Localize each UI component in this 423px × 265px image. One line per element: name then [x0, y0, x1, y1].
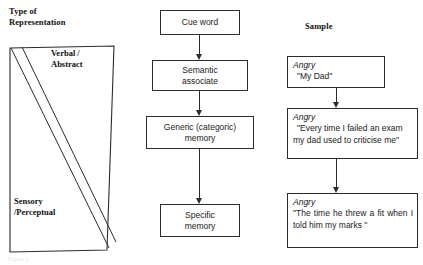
process-box-cue-word: Cue word — [160, 10, 240, 35]
sample-box-generic-memory: Angry "Every time I failed an exam my da… — [287, 108, 418, 159]
gradient-diagonal-upper — [11, 48, 109, 248]
sample-emotion-label: Angry — [293, 112, 413, 123]
process-box-generic-categoric-memory: Generic (categoric) memory — [146, 116, 254, 149]
sample-box-specific-memory: Angry "The time he threw a fit when I to… — [287, 193, 418, 248]
sample-emotion-label: Angry — [293, 60, 380, 71]
process-box-specific-memory: Specific memory — [160, 204, 240, 237]
representation-shape-svg — [0, 36, 140, 256]
sample-quote-text: "The time he threw a fit when I told him… — [293, 208, 413, 231]
sample-box-semantic-associate: Angry "My Dad" — [287, 56, 385, 88]
representation-label-verbal-abstract: Verbal / Abstract — [51, 48, 83, 69]
sample-emotion-label: Angry — [293, 197, 413, 208]
column-heading-type-of-representation: Type of Representation — [9, 6, 66, 27]
sample-quote-text: "Every time I failed an exam my dad used… — [293, 123, 413, 146]
column-heading-sample: Sample — [305, 21, 333, 32]
representation-gradient-quadrilateral — [0, 36, 140, 256]
process-box-semantic-associate: Semantic associate — [152, 60, 248, 91]
representation-label-sensory-perceptual: Sensory /Perceptual — [14, 196, 55, 217]
sample-quote-text: "My Dad" — [293, 71, 380, 83]
figure-caption-remnant: Figure 1. — [8, 256, 208, 263]
figure-canvas: Type of Representation Verbal / Abstract… — [0, 0, 423, 265]
